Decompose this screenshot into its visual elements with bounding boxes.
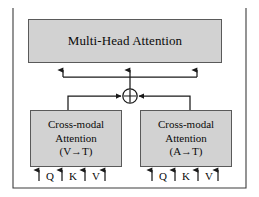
input-label-left-k: K (66, 171, 80, 182)
figure-canvas: Multi-Head Attention Cross-modal Attenti… (0, 0, 259, 197)
cross-modal-at-line1: Cross-modal (158, 118, 214, 132)
cross-modal-attention-at-block[interactable]: Cross-modal Attention (A→T) (140, 110, 232, 167)
input-label-right-k: K (179, 171, 193, 182)
input-label-left-v: V (89, 171, 103, 182)
cross-modal-vt-line1: Cross-modal (48, 118, 104, 132)
input-label-right-v: V (202, 171, 216, 182)
edge-crossmodal-vt-to-sum (68, 96, 121, 110)
input-label-right-q: Q (156, 171, 170, 182)
cross-modal-attention-vt-block[interactable]: Cross-modal Attention (V→T) (30, 110, 122, 167)
cross-modal-vt-line3: (V→T) (60, 145, 93, 159)
edge-crossmodal-at-to-sum (139, 96, 190, 110)
input-label-left-q: Q (43, 171, 57, 182)
cross-modal-at-line2: Attention (165, 132, 207, 146)
cross-modal-vt-line2: Attention (55, 132, 97, 146)
multi-head-attention-label: Multi-Head Attention (68, 33, 182, 49)
cross-modal-at-line3: (A→T) (170, 145, 203, 159)
edge-sum-to-multihead (63, 70, 197, 90)
sum-operator-node (123, 89, 137, 103)
multi-head-attention-block[interactable]: Multi-Head Attention (28, 19, 222, 63)
